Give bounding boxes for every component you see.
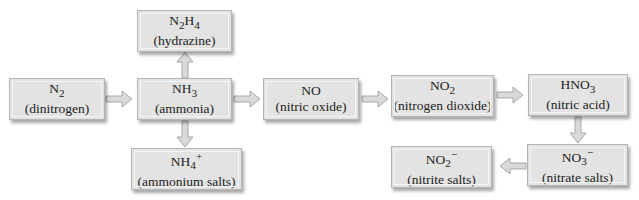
compound-name: (hydrazine) [153, 33, 215, 49]
node-nh3: NH3 (ammonia) [137, 78, 232, 120]
formula: NO [301, 83, 321, 99]
arrow-hno3-to-no3 [570, 117, 586, 143]
compound-name: (nitric acid) [546, 97, 609, 113]
arrow-n2-to-nh3 [106, 91, 132, 107]
formula: NO2− [426, 146, 457, 171]
compound-name: (ammonia) [155, 101, 214, 117]
formula: N2H4 [169, 13, 200, 33]
formula: HNO3 [561, 77, 596, 97]
compound-name: (nitrite salts) [407, 172, 476, 188]
compound-name: (dinitrogen) [25, 101, 89, 117]
node-no: NO (nitric oxide) [263, 78, 359, 120]
compound-name: (nitrate salts) [542, 170, 613, 186]
formula: NO2 [430, 78, 455, 98]
node-no2-minus: NO2− (nitrite salts) [391, 146, 492, 188]
node-hno3: HNO3 (nitric acid) [528, 74, 628, 116]
formula: NH3 [172, 81, 197, 101]
formula: NH4+ [171, 148, 202, 173]
arrow-no-to-no2 [362, 91, 388, 107]
arrow-no3-to-no2m [500, 158, 526, 174]
arrow-nh3-to-n2h4 [177, 52, 193, 78]
node-no3: NO3− (nitrate salts) [527, 144, 628, 186]
formula: NO3− [562, 144, 593, 169]
arrow-no2-to-hno3 [497, 87, 523, 103]
node-nh4: NH4+ (ammonium salts) [131, 148, 242, 190]
node-no2: NO2 (nitrogen dioxide) [391, 75, 494, 117]
node-n2h4: N2H4 (hydrazine) [137, 10, 232, 52]
compound-name: (ammonium salts) [138, 174, 236, 190]
arrow-nh3-to-no [234, 91, 260, 107]
formula: N2 [49, 81, 64, 101]
compound-name: (nitric oxide) [276, 99, 347, 115]
arrow-nh3-to-nh4 [177, 121, 193, 147]
compound-name: (nitrogen dioxide) [394, 98, 492, 114]
node-n2: N2 (dinitrogen) [9, 78, 105, 120]
